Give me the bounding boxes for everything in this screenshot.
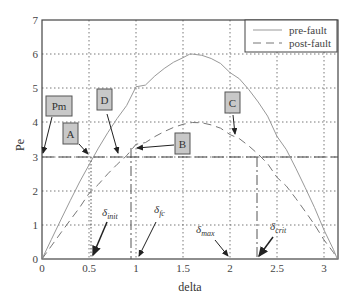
svg-text:4: 4 bbox=[33, 116, 39, 128]
svg-text:2: 2 bbox=[227, 262, 233, 274]
svg-text:B: B bbox=[179, 138, 186, 150]
svg-text:0.5: 0.5 bbox=[82, 262, 96, 274]
svg-text:δinit: δinit bbox=[102, 206, 119, 221]
annotation-b: B bbox=[137, 133, 190, 154]
svg-text:3: 3 bbox=[33, 151, 39, 163]
svg-text:δfc: δfc bbox=[154, 203, 165, 218]
svg-text:A: A bbox=[67, 128, 75, 140]
annotation-d: D bbox=[97, 89, 118, 153]
x-tick-labels: 0 0.5 1 1.5 2 2.5 3 bbox=[39, 262, 327, 274]
svg-text:5: 5 bbox=[33, 82, 39, 94]
svg-text:1: 1 bbox=[33, 219, 39, 231]
annotation-delta-init: δinit bbox=[93, 206, 119, 255]
annotation-delta-max: δmax bbox=[196, 223, 228, 256]
annotation-c: C bbox=[225, 92, 240, 134]
svg-text:C: C bbox=[229, 97, 236, 109]
svg-text:3: 3 bbox=[321, 262, 327, 274]
svg-text:1.5: 1.5 bbox=[176, 262, 190, 274]
svg-text:6: 6 bbox=[33, 48, 39, 60]
svg-text:δcrit: δcrit bbox=[270, 220, 287, 235]
svg-text:0: 0 bbox=[39, 262, 45, 274]
y-tick-labels: 0 1 2 3 4 5 6 7 bbox=[33, 14, 39, 265]
svg-text:1: 1 bbox=[133, 262, 139, 274]
legend-post-fault: post-fault bbox=[289, 37, 331, 49]
annotation-a: A bbox=[63, 123, 88, 154]
legend-pre-fault: pre-fault bbox=[289, 24, 327, 36]
svg-text:0: 0 bbox=[33, 253, 39, 265]
annotation-delta-fc: δfc bbox=[139, 203, 165, 256]
svg-text:2.5: 2.5 bbox=[270, 262, 284, 274]
y-axis-label: Pe bbox=[13, 139, 27, 151]
x-axis-label: delta bbox=[178, 280, 202, 294]
power-angle-chart: 0 0.5 1 1.5 2 2.5 3 0 1 2 3 4 5 6 7 delt… bbox=[0, 0, 356, 305]
svg-text:2: 2 bbox=[33, 185, 39, 197]
legend: pre-fault post-fault bbox=[245, 20, 337, 52]
svg-text:δmax: δmax bbox=[196, 223, 215, 238]
svg-text:7: 7 bbox=[33, 14, 39, 26]
svg-text:D: D bbox=[101, 94, 109, 106]
svg-text:Pm: Pm bbox=[52, 100, 67, 112]
